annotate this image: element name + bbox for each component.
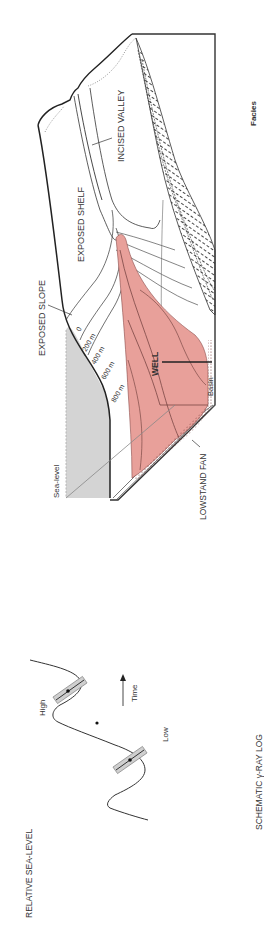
block-diagram [38,34,215,500]
label-relative-sea-level: RELATIVE SEA-LEVEL [24,829,34,918]
label-high: High [38,700,47,716]
sequence-stratigraphy-diagram: EXPOSED SLOPE EXPOSED SHELF INCISED VALL… [0,0,264,944]
label-low: Low [161,727,170,742]
contour-400: 400 m [90,345,106,365]
label-facies: Facies [249,101,258,126]
label-exposed-slope: EXPOSED SLOPE [37,280,47,356]
shelf-wedge [136,38,215,315]
contour-800: 800 m [110,383,126,403]
label-lowstand-fan: LOWSTAND FAN [198,454,208,520]
sea-area [66,327,110,498]
sea-level-curve: Time High Low RELATIVE SEA-LEVEL [24,660,170,918]
sea-level-curve-line [30,660,148,820]
label-well: WELL [150,352,160,376]
contour-200: 200 m [81,332,97,352]
label-incised-valley: INCISED VALLEY [116,90,126,162]
label-sea-level: Sea-level [52,464,61,498]
contour-600: 600 m [100,360,116,380]
contour-0: 0 [75,326,83,333]
label-exposed-shelf: EXPOSED SHELF [76,186,86,262]
lowstand-fan [116,234,208,478]
label-time: Time [130,684,139,702]
time-arrow-icon [120,674,126,681]
label-gamma-ray-log: SCHEMATIC γ-RAY LOG [254,734,264,830]
label-basin: Basin [206,377,215,396]
